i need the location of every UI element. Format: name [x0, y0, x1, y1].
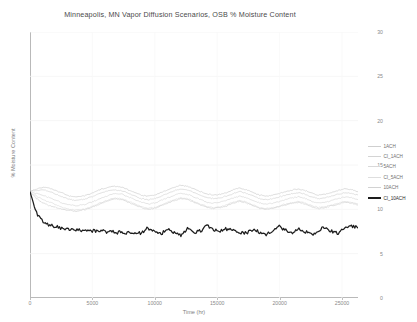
legend-item-label: CI_5ACH — [384, 175, 403, 180]
plot-area — [30, 32, 358, 298]
y-axis-title: % Moisture Content — [10, 83, 16, 223]
plot-svg — [30, 32, 358, 298]
x-axis-tick-mark — [155, 298, 156, 300]
x-axis-tick-label: 0 — [13, 300, 47, 306]
y-axis-tick-label: 10 — [361, 206, 383, 212]
series-line — [30, 189, 358, 201]
legend-item-label: 1ACH — [384, 144, 396, 149]
x-axis-title: Time (hr) — [30, 309, 358, 315]
y-axis-tick-label: 25 — [361, 73, 383, 79]
legend-color-swatch — [368, 166, 381, 167]
legend-item-label: CI_10ACH — [384, 196, 406, 201]
y-axis-tick-label: 5 — [361, 251, 383, 257]
series-line — [30, 191, 358, 206]
legend-item-label: CI_1ACH — [384, 154, 403, 159]
x-axis-tick-mark — [30, 298, 31, 300]
legend-item[interactable]: CI_10ACH — [368, 193, 417, 203]
legend-item-label: 5ACH — [384, 164, 396, 169]
x-axis-tick-mark — [280, 298, 281, 300]
legend-color-swatch — [368, 187, 381, 188]
legend-item[interactable]: 10ACH — [368, 183, 417, 193]
y-axis-tick-label: 0 — [361, 295, 383, 301]
legend-color-swatch — [368, 146, 381, 147]
chart-title: Minneapolis, MN Vapor Diffusion Scenario… — [0, 10, 360, 19]
plot-frame — [30, 32, 358, 298]
x-axis-tick-label: 5000 — [75, 300, 109, 306]
series-line — [30, 192, 358, 211]
chart-legend: 1ACHCI_1ACH5ACHCI_5ACH10ACHCI_10ACH — [368, 141, 417, 203]
chart-container: Minneapolis, MN Vapor Diffusion Scenario… — [0, 0, 417, 322]
legend-color-swatch — [368, 177, 381, 178]
series-line — [30, 192, 358, 237]
legend-item[interactable]: 5ACH — [368, 162, 417, 172]
x-axis-tick-label: 25000 — [325, 300, 359, 306]
x-axis-tick-mark — [92, 298, 93, 300]
legend-item-label: 10ACH — [384, 185, 399, 190]
x-axis-tick-label: 15000 — [200, 300, 234, 306]
x-axis-tick-label: 10000 — [138, 300, 172, 306]
series-line — [30, 185, 358, 197]
x-axis-tick-mark — [342, 298, 343, 300]
legend-color-swatch — [368, 156, 381, 157]
legend-color-swatch — [368, 197, 381, 199]
y-axis-tick-label: 30 — [361, 29, 383, 35]
legend-item[interactable]: 1ACH — [368, 141, 417, 151]
legend-item[interactable]: CI_5ACH — [368, 172, 417, 182]
x-axis-tick-mark — [217, 298, 218, 300]
y-axis-tick-label: 20 — [361, 118, 383, 124]
legend-item[interactable]: CI_1ACH — [368, 151, 417, 161]
x-axis-tick-label: 20000 — [263, 300, 297, 306]
